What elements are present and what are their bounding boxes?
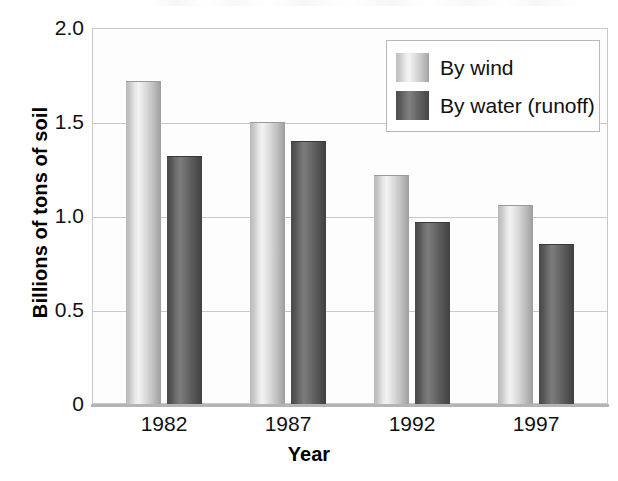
- bar-1992-by-water-runoff[interactable]: [415, 222, 450, 404]
- x-tick-1997: 1997: [513, 412, 560, 436]
- bar-1982-by-wind[interactable]: [126, 81, 161, 404]
- legend-item-by-water-runoff[interactable]: By water (runoff): [396, 86, 590, 124]
- bar-chart-figure: 2.0 1.5 1.0 0.5 0 Billions of tons of so…: [0, 0, 618, 481]
- x-tick-1987: 1987: [265, 412, 312, 436]
- legend-swatch-by-wind-icon: [396, 53, 429, 82]
- x-tick-1982: 1982: [141, 412, 188, 436]
- legend-label-by-water-runoff: By water (runoff): [440, 95, 595, 116]
- bar-1997-by-wind[interactable]: [498, 205, 533, 404]
- bar-1987-by-water-runoff[interactable]: [291, 141, 326, 404]
- bar-1997-by-water-runoff[interactable]: [539, 244, 574, 404]
- bar-1987-by-wind[interactable]: [250, 122, 285, 404]
- x-tick-1992: 1992: [389, 412, 436, 436]
- bar-1992-by-wind[interactable]: [374, 175, 409, 404]
- bar-1982-by-water-runoff[interactable]: [167, 156, 202, 404]
- legend: By wind By water (runoff): [386, 40, 600, 132]
- legend-swatch-by-water-icon: [396, 91, 429, 120]
- x-axis-title: Year: [0, 443, 618, 466]
- legend-label-by-wind: By wind: [440, 57, 514, 78]
- legend-item-by-wind[interactable]: By wind: [396, 48, 590, 86]
